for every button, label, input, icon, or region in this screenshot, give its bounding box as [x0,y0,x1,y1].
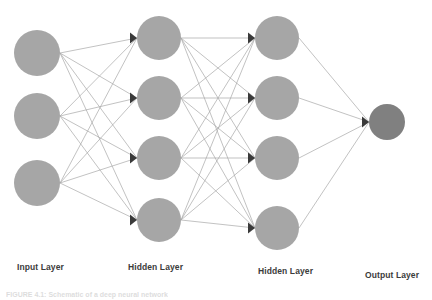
edge [60,38,137,53]
arrowhead-icon [248,33,255,44]
arrowhead-icon [130,215,137,226]
figure-caption: FIGURE 4.1: Schematic of a deep neural n… [6,291,426,300]
edge [60,38,137,116]
neuron-node-hidden-3 [137,136,181,180]
neuron-node-hidden-3 [255,136,299,180]
edge [60,183,137,220]
edge [60,116,137,220]
edge [60,98,137,116]
edge [60,53,137,158]
neuron-node-hidden-1 [255,16,299,60]
edges-group [60,38,369,228]
neuron-node-input-1 [14,30,60,76]
arrowhead-icon [248,93,255,104]
arrowhead-icon [248,153,255,164]
arrowhead-icon [130,153,137,164]
neuron-node-hidden-2 [137,76,181,120]
edge [60,53,137,220]
edge [299,122,369,158]
arrowhead-icon [248,223,255,234]
layer-label-input: Input Layer [17,262,64,272]
neuron-node-hidden-1 [137,16,181,60]
edge [181,220,255,228]
edge [181,98,255,220]
edge [299,98,369,122]
layer-label-output: Output Layer [365,270,419,280]
neuron-node-input-2 [14,93,60,139]
neuron-node-hidden-4 [137,198,181,242]
edge [299,122,369,228]
edge [181,158,255,220]
neural-network-graphic [0,0,432,300]
layer-label-hidden-1: Hidden Layer [128,262,183,272]
neuron-node-hidden-4 [255,206,299,250]
edge [181,98,255,228]
edge [299,38,369,122]
edge [181,38,255,228]
layer-label-hidden-2: Hidden Layer [258,266,313,276]
neuron-node-output-1 [369,104,405,140]
neuron-node-hidden-2 [255,76,299,120]
edge [60,116,137,158]
neuron-node-input-3 [14,160,60,206]
figure-canvas: Input Layer Hidden Layer Hidden Layer Ou… [0,0,432,300]
